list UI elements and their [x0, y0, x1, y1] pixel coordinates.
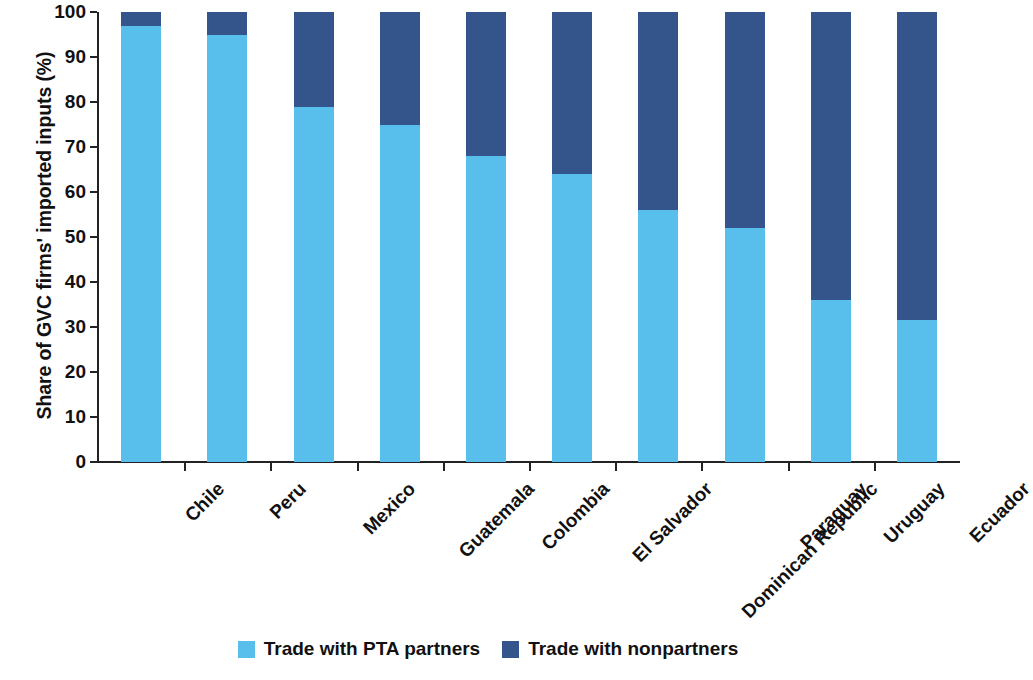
x-tick-mark-1: [184, 463, 186, 471]
bar-segment-pta-partners: [897, 320, 937, 462]
bar-segment-pta-partners: [638, 210, 678, 462]
bar-segment-pta-partners: [294, 107, 334, 463]
bar-segment-nonpartners: [294, 12, 334, 107]
x-axis-label-peru: Peru: [266, 478, 311, 523]
bar-segment-pta-partners: [725, 228, 765, 462]
bar-paraguay: [725, 12, 765, 462]
y-tick-label-50: 50: [38, 226, 86, 248]
bar-el-salvador: [552, 12, 592, 462]
y-tick-mark-30: [90, 326, 97, 328]
bar-segment-pta-partners: [552, 174, 592, 462]
bar-segment-nonpartners: [811, 12, 851, 300]
bar-peru: [207, 12, 247, 462]
bar-ecuador: [897, 12, 937, 462]
y-tick-label-100: 100: [38, 1, 86, 23]
y-tick-mark-60: [90, 191, 97, 193]
y-tick-mark-0: [90, 461, 97, 463]
y-tick-label-10: 10: [38, 406, 86, 428]
bar-segment-pta-partners: [811, 300, 851, 462]
x-axis-label-mexico: Mexico: [358, 478, 419, 539]
x-axis-label-el-salvador: El Salvador: [628, 478, 717, 567]
bar-segment-pta-partners: [466, 156, 506, 462]
bar-segment-nonpartners: [638, 12, 678, 210]
bar-segment-nonpartners: [552, 12, 592, 174]
legend-item-nonpartners[interactable]: Trade with nonpartners: [502, 638, 738, 660]
x-axis-label-uruguay: Uruguay: [879, 478, 949, 548]
y-tick-mark-20: [90, 371, 97, 373]
chart-legend: Trade with PTA partnersTrade with nonpar…: [0, 638, 976, 660]
x-tick-mark-2: [270, 463, 272, 471]
bar-chile: [121, 12, 161, 462]
x-axis-label-ecuador: Ecuador: [965, 478, 1033, 547]
x-axis-label-colombia: Colombia: [537, 478, 614, 555]
y-tick-label-60: 60: [38, 181, 86, 203]
bar-mexico: [294, 12, 334, 462]
y-tick-mark-100: [90, 11, 97, 13]
bar-segment-nonpartners: [207, 12, 247, 35]
y-tick-label-40: 40: [38, 271, 86, 293]
bar-uruguay: [811, 12, 851, 462]
x-tick-mark-8: [788, 463, 790, 471]
bar-segment-nonpartners: [897, 12, 937, 320]
bar-colombia: [466, 12, 506, 462]
bar-segment-nonpartners: [466, 12, 506, 156]
x-tick-mark-4: [443, 463, 445, 471]
legend-label: Trade with PTA partners: [264, 638, 480, 660]
y-tick-mark-70: [90, 146, 97, 148]
bar-segment-pta-partners: [207, 35, 247, 463]
y-tick-label-0: 0: [38, 451, 86, 473]
y-tick-mark-40: [90, 281, 97, 283]
x-tick-mark-6: [615, 463, 617, 471]
y-tick-label-30: 30: [38, 316, 86, 338]
legend-item-pta-partners[interactable]: Trade with PTA partners: [238, 638, 480, 660]
y-tick-mark-80: [90, 101, 97, 103]
bar-segment-nonpartners: [725, 12, 765, 228]
bar-segment-pta-partners: [380, 125, 420, 463]
x-tick-mark-9: [874, 463, 876, 471]
y-tick-mark-10: [90, 416, 97, 418]
bar-guatemala: [380, 12, 420, 462]
y-tick-label-80: 80: [38, 91, 86, 113]
x-axis-label-guatemala: Guatemala: [454, 478, 538, 562]
x-tick-mark-7: [701, 463, 703, 471]
y-tick-label-70: 70: [38, 136, 86, 158]
x-tick-mark-5: [529, 463, 531, 471]
legend-swatch-icon: [238, 641, 255, 658]
y-tick-mark-90: [90, 56, 97, 58]
bar-segment-nonpartners: [121, 12, 161, 26]
legend-label: Trade with nonpartners: [528, 638, 738, 660]
plot-area: [98, 12, 960, 462]
y-tick-label-90: 90: [38, 46, 86, 68]
y-tick-label-20: 20: [38, 361, 86, 383]
x-tick-mark-3: [357, 463, 359, 471]
legend-swatch-icon: [502, 641, 519, 658]
y-tick-mark-50: [90, 236, 97, 238]
bar-segment-pta-partners: [121, 26, 161, 463]
x-axis-label-paraguay: Paraguay: [796, 478, 872, 554]
x-axis-label-chile: Chile: [181, 478, 229, 526]
bar-segment-nonpartners: [380, 12, 420, 125]
bar-dominican-republic: [638, 12, 678, 462]
